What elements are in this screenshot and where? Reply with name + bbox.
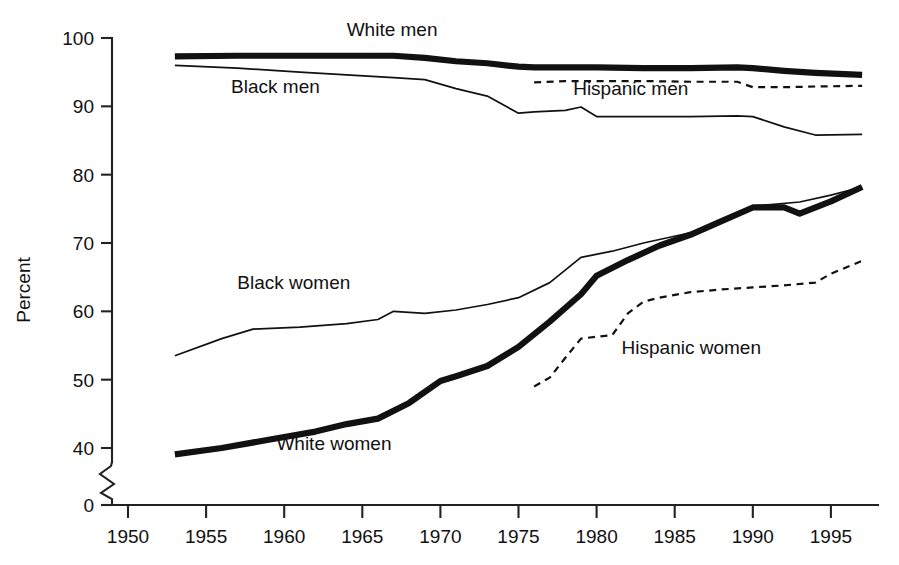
y-axis-break-zigzag xyxy=(100,462,114,505)
series-label-black-women: Black women xyxy=(237,272,350,293)
line-chart-svg: 0405060708090100195019551960196519701975… xyxy=(0,0,899,565)
series-line-white-men xyxy=(175,56,862,75)
x-tick-label-1970: 1970 xyxy=(419,526,461,547)
series-label-white-men: White men xyxy=(347,19,438,40)
x-tick-label-1995: 1995 xyxy=(810,526,852,547)
chart-figure: 0405060708090100195019551960196519701975… xyxy=(0,0,899,565)
x-tick-label-1950: 1950 xyxy=(107,526,149,547)
y-tick-label-0: 0 xyxy=(83,495,94,516)
series-label-white-women: White women xyxy=(276,433,391,454)
x-tick-label-1960: 1960 xyxy=(263,526,305,547)
series-label-hispanic-men: Hispanic men xyxy=(573,78,688,99)
x-tick-label-1965: 1965 xyxy=(341,526,383,547)
y-tick-label-80: 80 xyxy=(73,165,94,186)
series-label-black-men: Black men xyxy=(231,76,320,97)
y-tick-label-100: 100 xyxy=(62,28,94,49)
series-group xyxy=(175,56,862,455)
x-tick-label-1985: 1985 xyxy=(654,526,696,547)
y-tick-label-50: 50 xyxy=(73,370,94,391)
x-tick-label-1980: 1980 xyxy=(575,526,617,547)
y-tick-label-40: 40 xyxy=(73,438,94,459)
x-tick-label-1955: 1955 xyxy=(185,526,227,547)
y-tick-label-60: 60 xyxy=(73,301,94,322)
series-line-white-women xyxy=(175,187,862,454)
x-tick-label-1975: 1975 xyxy=(497,526,539,547)
series-line-hispanic-women xyxy=(534,261,862,387)
y-tick-label-70: 70 xyxy=(73,233,94,254)
y-axis-title: Percent xyxy=(13,257,34,323)
series-label-hispanic-women: Hispanic women xyxy=(622,337,761,358)
y-tick-label-90: 90 xyxy=(73,96,94,117)
x-tick-label-1990: 1990 xyxy=(732,526,774,547)
